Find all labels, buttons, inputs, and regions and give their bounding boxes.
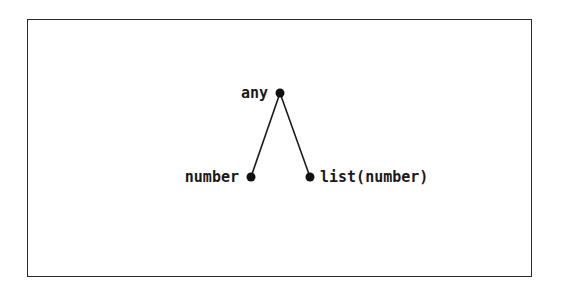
node-number-label: number bbox=[185, 168, 239, 186]
node-list-number-dot bbox=[306, 173, 315, 182]
node-list-number-label: list(number) bbox=[320, 168, 428, 186]
node-number-dot bbox=[247, 173, 256, 182]
type-tree-diagram: any number list(number) bbox=[0, 0, 561, 299]
node-any-dot bbox=[276, 89, 285, 98]
node-any-label: any bbox=[241, 84, 268, 102]
edge-any-number bbox=[251, 93, 280, 177]
edge-any-list-number bbox=[280, 93, 310, 177]
